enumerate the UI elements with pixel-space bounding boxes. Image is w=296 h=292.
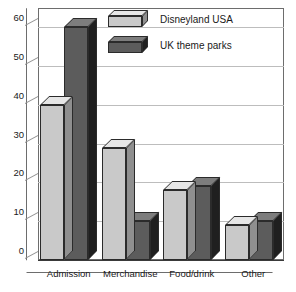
bar-front-face [163,190,187,260]
y-tick-label: 10 [2,207,24,216]
bar-other-disneyland-usa [225,225,249,260]
bar-side-face [211,177,220,260]
bar-front-face [225,225,249,260]
y-tick-label: 0 [2,246,24,255]
legend-item: UK theme parks [108,36,258,58]
bar-side-face [187,181,196,260]
bar-admission-disneyland-usa [40,105,64,260]
bar-side-face [64,96,73,260]
legend-swatch-face [108,16,142,27]
axis-baseline [38,260,284,261]
legend-label: Disneyland USA [160,14,233,25]
x-tick-label: Food/drink [169,268,214,279]
x-tick-label: Admission [47,268,91,279]
y-tick-label: 30 [2,130,24,139]
legend-label: UK theme parks [160,40,232,51]
x-tick-label: Other [241,268,265,279]
legend-item: Disneyland USA [108,10,258,32]
bar-front-face [102,148,126,260]
legend-swatch-icon [108,16,142,27]
chart-legend: Disneyland USAUK theme parks [108,10,258,62]
legend-swatch-icon [108,42,142,53]
legend-swatch-face [108,42,142,53]
y-tick-label: 60 [2,13,24,22]
bar-merchandise-disneyland-usa [102,148,126,260]
clipped-title-fragment [12,0,212,6]
y-tick-label: 20 [2,168,24,177]
y-axis: 0102030405060 [0,0,24,292]
bar-side-face [126,138,135,260]
bar-side-face [88,18,97,260]
bar-chart: 0102030405060 AdmissionMerchandiseFood/d… [0,0,296,292]
y-tick-label: 40 [2,91,24,100]
x-tick-label: Merchandise [103,268,157,279]
bar-front-face [40,105,64,260]
bar-food-drink-disneyland-usa [163,190,187,260]
y-tick-label: 50 [2,52,24,61]
